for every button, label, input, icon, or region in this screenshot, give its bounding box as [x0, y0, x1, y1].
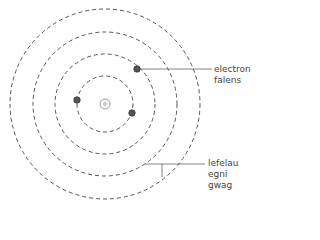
label-line: falens: [214, 75, 251, 86]
valence-electron: [134, 66, 140, 72]
valence-electron-label: electron falens: [214, 64, 251, 86]
energy-levels-label: lefelau egni gwag: [208, 158, 253, 191]
label-line: lefelau: [208, 158, 253, 169]
label-line: egni gwag: [208, 169, 253, 191]
electron: [74, 97, 80, 103]
nucleus: [100, 99, 110, 109]
label-line: electron: [214, 64, 251, 75]
electron: [129, 110, 135, 116]
